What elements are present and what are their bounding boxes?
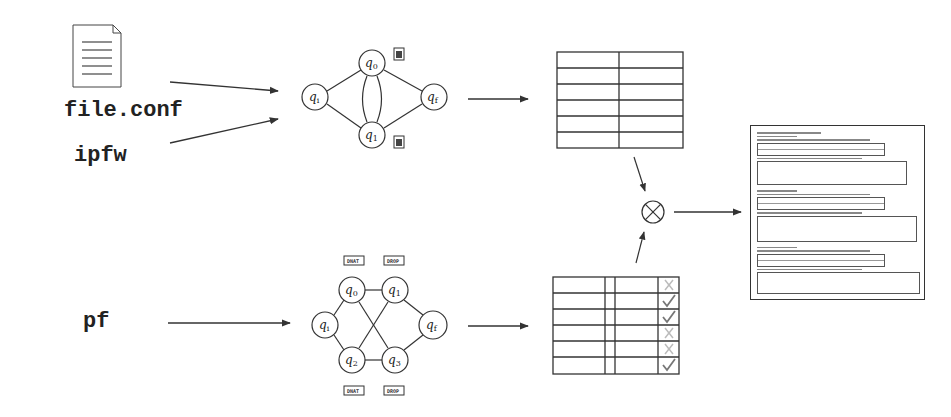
top-node-q0: q0 <box>359 50 385 76</box>
svg-text:DROP: DROP <box>387 258 399 264</box>
arrow-file-to-graph <box>170 82 278 91</box>
arrow-top-table-to-combine <box>634 157 645 191</box>
svg-text:DNAT: DNAT <box>347 258 359 264</box>
svg-text:DNAT: DNAT <box>347 388 359 394</box>
top-node-qi: qi <box>302 84 328 110</box>
arrow-bottom-table-to-combine <box>636 232 644 263</box>
top-node-qf: qf <box>421 84 447 110</box>
pf-label: pf <box>83 309 109 334</box>
bottom-node-qi: qi <box>312 312 338 338</box>
bottom-node-q2: q2 <box>339 347 365 373</box>
arrow-ipfw-to-graph <box>170 119 278 143</box>
bottom-node-q3: q3 <box>382 347 408 373</box>
document-icon <box>394 136 404 148</box>
tag-drop-bottom: DROP <box>384 386 404 395</box>
combine-operator-icon <box>642 201 664 223</box>
tag-dnat-bottom: DNAT <box>344 386 364 395</box>
file-conf-label: file.conf <box>64 98 183 123</box>
top-table <box>557 52 683 148</box>
ipfw-label: ipfw <box>74 143 127 168</box>
tag-drop-top: DROP <box>384 256 404 265</box>
document-icon <box>394 48 404 60</box>
top-node-q1: q1 <box>359 122 385 148</box>
svg-text:DROP: DROP <box>387 388 399 394</box>
bottom-node-q1: q1 <box>382 277 408 303</box>
tag-dnat-top: DNAT <box>344 256 364 265</box>
bottom-node-q0: q0 <box>339 277 365 303</box>
document-icon <box>73 25 121 87</box>
output-report <box>750 125 925 300</box>
bottom-node-qf: qf <box>419 311 447 339</box>
bottom-table <box>553 277 679 374</box>
top-automaton <box>327 70 422 128</box>
